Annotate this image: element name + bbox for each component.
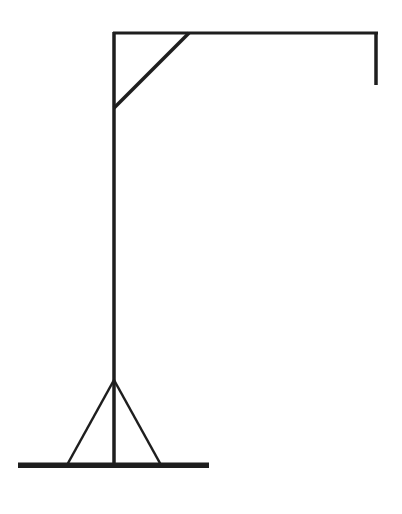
background [0,0,402,514]
gallows-diagram [0,0,402,514]
base-platform [18,463,209,469]
